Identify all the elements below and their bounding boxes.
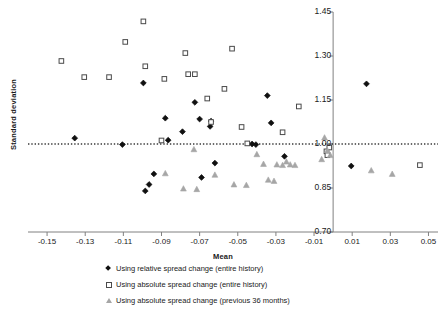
legend-item: Using relative spread change (entire his… (105, 264, 263, 273)
data-point (205, 96, 210, 101)
x-tick-label: -0.03 (256, 237, 296, 246)
x-tick-label: 0.05 (408, 237, 446, 246)
data-point (348, 163, 354, 169)
data-point (209, 120, 214, 125)
x-tick-label: -0.01 (294, 237, 334, 246)
data-point (143, 64, 148, 69)
x-tick-label: -0.05 (218, 237, 258, 246)
data-point (264, 93, 270, 99)
data-point (82, 75, 87, 80)
y-tick-label: 1.45 (297, 6, 331, 16)
data-point (368, 168, 374, 173)
data-point (186, 72, 191, 77)
legend-item: Using absolute spread change (entire his… (105, 280, 267, 289)
x-tick-label: 0.03 (370, 237, 410, 246)
data-point (212, 160, 218, 166)
x-tick-label: 0.01 (332, 237, 372, 246)
data-point (212, 172, 218, 177)
data-point (123, 40, 128, 45)
x-axis-title: Mean (0, 252, 446, 261)
data-point (162, 115, 168, 121)
data-point (142, 188, 148, 194)
data-point (265, 177, 271, 182)
data-point (191, 146, 197, 151)
data-point (197, 116, 203, 122)
data-point (222, 87, 227, 92)
data-point (192, 99, 198, 105)
x-tick-label: -0.11 (103, 237, 143, 246)
legend-item-label: Using relative spread change (entire his… (116, 264, 263, 273)
diamond-marker-icon (105, 265, 112, 272)
data-point (231, 182, 237, 187)
data-point (230, 46, 235, 51)
data-point (151, 171, 157, 177)
data-point (292, 162, 298, 167)
data-point (319, 156, 325, 161)
data-point (254, 151, 260, 156)
legend-item: Using absolute spread change (previous 3… (105, 296, 290, 305)
data-point (199, 175, 205, 181)
y-tick-label: 1.30 (297, 50, 331, 60)
data-point (243, 182, 249, 187)
legend-item-label: Using absolute spread change (entire his… (116, 280, 267, 289)
x-tick-label: -0.13 (65, 237, 105, 246)
series-square (59, 19, 422, 167)
data-point (159, 138, 164, 143)
data-point (141, 19, 146, 24)
data-point (271, 178, 277, 183)
data-point (140, 80, 146, 86)
data-point (162, 77, 167, 82)
y-axis-title: Standard deviation (9, 65, 18, 165)
data-point (245, 141, 250, 146)
y-tick-label: 0.70 (297, 226, 331, 236)
y-tick-label: 0.85 (297, 182, 331, 192)
data-point (107, 75, 112, 80)
data-point (364, 81, 370, 87)
y-tick-label: 1.15 (297, 94, 331, 104)
data-point (162, 170, 168, 175)
x-tick-label: -0.07 (180, 237, 220, 246)
data-point (193, 72, 198, 77)
data-point (194, 186, 200, 191)
data-point (268, 120, 274, 126)
x-tick-label: -0.15 (27, 237, 67, 246)
legend-item-label: Using absolute spread change (previous 3… (116, 296, 290, 305)
data-point (72, 135, 78, 141)
data-point (296, 104, 301, 109)
x-tick-label: -0.09 (141, 237, 181, 246)
data-point (180, 129, 186, 135)
triangle-marker-icon (105, 297, 112, 304)
data-point (280, 130, 285, 135)
y-tick-label: 1.00 (297, 138, 331, 148)
square-marker-icon (105, 281, 112, 288)
data-point (261, 161, 267, 166)
data-point (183, 51, 188, 56)
data-point (165, 137, 171, 143)
data-point (389, 171, 395, 176)
data-point (146, 182, 152, 188)
data-point (239, 125, 244, 130)
data-point (274, 162, 280, 167)
scatter-chart: Standard deviation Mean -0.15-0.13-0.11-… (0, 0, 446, 312)
series-triangle (162, 135, 395, 192)
data-point (181, 186, 187, 191)
data-point (119, 142, 125, 148)
data-point (418, 163, 423, 168)
data-point (59, 59, 64, 64)
